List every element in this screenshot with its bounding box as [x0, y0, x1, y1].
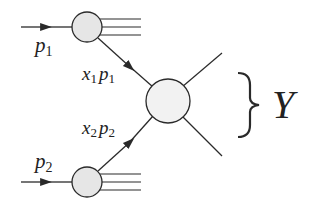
- proton-blob-2: [72, 167, 102, 197]
- final-state-brace: [238, 73, 259, 137]
- proton-blob-1: [72, 12, 102, 42]
- label-p1: p1: [33, 33, 53, 59]
- outgoing-line-lower: [182, 116, 222, 156]
- remnant-lines-p1: [100, 19, 141, 35]
- label-x1p1: x1p1: [81, 63, 115, 86]
- remnant-lines-p2: [100, 174, 141, 190]
- hard-scatter-blob: [146, 79, 190, 123]
- label-x2p2: x2p2: [81, 117, 115, 140]
- diagram-canvas: p1 x1p1 x2p2 p2 Y: [0, 0, 316, 209]
- label-Y: Y: [272, 82, 298, 127]
- feynman-diagram: p1 x1p1 x2p2 p2 Y: [0, 0, 316, 209]
- label-p2: p2: [33, 149, 53, 175]
- outgoing-line-upper: [182, 53, 222, 87]
